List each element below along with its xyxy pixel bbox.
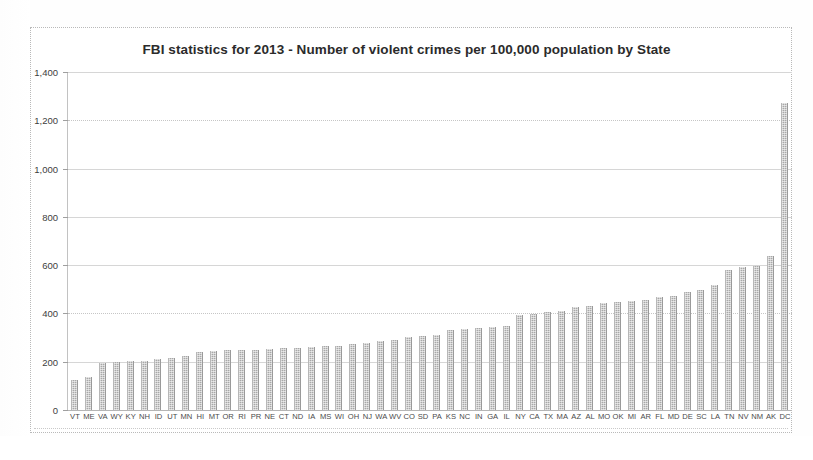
- bar-slot: [653, 72, 667, 410]
- bar: [71, 380, 78, 410]
- bar-slot: [193, 72, 207, 410]
- x-tick-label: GA: [486, 412, 500, 421]
- x-tick-label: AK: [764, 412, 778, 421]
- x-tick-label: MI: [625, 412, 639, 421]
- bar: [196, 352, 203, 410]
- bar: [461, 329, 468, 410]
- bar: [252, 350, 259, 410]
- x-tick-label: NY: [514, 412, 528, 421]
- bar-slot: [514, 72, 528, 410]
- bar: [530, 314, 537, 410]
- x-tick-label: AR: [639, 412, 653, 421]
- bar: [489, 327, 496, 410]
- x-tick-label: SC: [695, 412, 709, 421]
- x-tick-label: PA: [430, 412, 444, 421]
- bar-slot: [165, 72, 179, 410]
- x-tick-label: WA: [374, 412, 388, 421]
- bar: [182, 356, 189, 410]
- bar-slot: [138, 72, 152, 410]
- bar-slot: [597, 72, 611, 410]
- x-tick-label: UT: [165, 412, 179, 421]
- bar-slot: [291, 72, 305, 410]
- bar-slot: [625, 72, 639, 410]
- x-tick-label: AZ: [569, 412, 583, 421]
- bar: [405, 337, 412, 410]
- bar-slot: [221, 72, 235, 410]
- bar-slot: [346, 72, 360, 410]
- x-tick-label: CO: [402, 412, 416, 421]
- x-tick-label: VA: [96, 412, 110, 421]
- bar: [753, 266, 760, 410]
- bar-slot: [458, 72, 472, 410]
- x-tick-label: FL: [653, 412, 667, 421]
- x-tick-label: TN: [722, 412, 736, 421]
- y-tick-label: 200: [14, 356, 58, 367]
- bar-slot: [179, 72, 193, 410]
- x-tick-label: KS: [444, 412, 458, 421]
- x-tick-label: MS: [319, 412, 333, 421]
- x-tick-label: RI: [235, 412, 249, 421]
- x-tick-label: NM: [750, 412, 764, 421]
- x-tick-label: DE: [681, 412, 695, 421]
- chart-title: FBI statistics for 2013 - Number of viol…: [0, 42, 813, 57]
- bar: [168, 358, 175, 410]
- bar: [127, 361, 134, 410]
- bar: [544, 312, 551, 410]
- bar: [711, 285, 718, 410]
- bar-slot: [82, 72, 96, 410]
- x-tick-label: SD: [416, 412, 430, 421]
- bar: [572, 307, 579, 410]
- bar-slot: [555, 72, 569, 410]
- x-tick-label: CA: [527, 412, 541, 421]
- x-tick-label: NC: [458, 412, 472, 421]
- x-tick-label: WV: [388, 412, 402, 421]
- bar: [600, 303, 607, 410]
- bar: [767, 256, 774, 411]
- bar: [503, 326, 510, 410]
- bar-slot: [736, 72, 750, 410]
- bar-slot: [249, 72, 263, 410]
- bar-slot: [333, 72, 347, 410]
- bar-slot: [402, 72, 416, 410]
- bar: [433, 335, 440, 410]
- bar-slot: [416, 72, 430, 410]
- x-tick-label: NJ: [360, 412, 374, 421]
- bar-slot: [68, 72, 82, 410]
- x-tick-label: MN: [179, 412, 193, 421]
- bar: [280, 348, 287, 410]
- bar: [558, 311, 565, 410]
- chart-page: FBI statistics for 2013 - Number of viol…: [0, 0, 813, 460]
- y-tick-label: 1,400: [14, 67, 58, 78]
- bar: [349, 344, 356, 410]
- bar: [586, 306, 593, 410]
- bar-series: [68, 72, 792, 410]
- x-tick-label: NE: [263, 412, 277, 421]
- bar: [154, 359, 161, 410]
- bar-slot: [764, 72, 778, 410]
- bar-slot: [569, 72, 583, 410]
- bar: [224, 350, 231, 410]
- x-tick-label: IN: [472, 412, 486, 421]
- bar: [377, 341, 384, 410]
- x-tick-label: NV: [736, 412, 750, 421]
- x-tick-label: HI: [193, 412, 207, 421]
- bar: [419, 336, 426, 410]
- y-tick-label: 0: [14, 405, 58, 416]
- bar-slot: [319, 72, 333, 410]
- bar-slot: [235, 72, 249, 410]
- x-tick-label: DC: [778, 412, 792, 421]
- bar-slot: [722, 72, 736, 410]
- bar: [684, 292, 691, 410]
- x-tick-label: PR: [249, 412, 263, 421]
- x-axis-labels: VTMEVAWYKYNHIDUTMNHIMTORRIPRNECTNDIAMSWI…: [68, 412, 792, 426]
- bar-slot: [444, 72, 458, 410]
- y-tick-label: 1,200: [14, 115, 58, 126]
- bar-slot: [681, 72, 695, 410]
- bar: [697, 290, 704, 410]
- bar-slot: [750, 72, 764, 410]
- bar: [266, 349, 273, 410]
- bar-slot: [374, 72, 388, 410]
- x-tick-label: OH: [346, 412, 360, 421]
- bar: [363, 343, 370, 410]
- bar: [614, 302, 621, 410]
